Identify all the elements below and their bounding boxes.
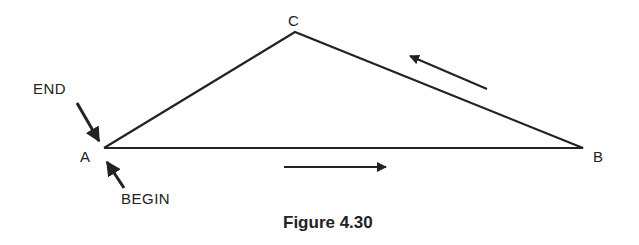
triangle-path [104,32,583,148]
begin-pointer-arrow [107,162,124,188]
vertex-a-label: A [80,148,91,165]
vertex-b-label: B [593,148,604,165]
begin-label: BEGIN [121,190,170,207]
end-pointer-arrow [77,103,99,141]
figure-caption: Figure 4.30 [283,213,373,233]
triangle-diagram [0,0,639,245]
end-label: END [33,80,66,97]
vertex-c-label: C [288,12,299,29]
